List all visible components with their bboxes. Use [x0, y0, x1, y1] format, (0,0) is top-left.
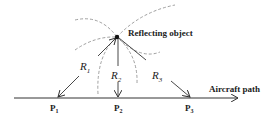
point-label-p1: P1	[50, 103, 59, 114]
reflecting-object-label: Reflecting object	[128, 28, 193, 38]
range-label-r1: R1	[79, 60, 90, 75]
r3-lower-arrow	[171, 81, 190, 97]
aircraft-path-label: Aircraft path	[209, 84, 260, 94]
r1-lower-arrow	[58, 76, 79, 97]
range-label-r2: R2	[110, 69, 122, 84]
point-label-p2: P2	[114, 103, 123, 114]
range-label-r3: R3	[151, 69, 163, 84]
reflecting-object-dot	[115, 35, 119, 39]
reflection-diagram: Reflecting object R1 R2 R3 Aircraft path…	[0, 0, 271, 117]
r1-upper-line	[98, 38, 116, 56]
point-label-p3: P3	[185, 103, 194, 114]
range-arrows	[58, 38, 190, 97]
arc-vertical-left	[98, 37, 117, 94]
